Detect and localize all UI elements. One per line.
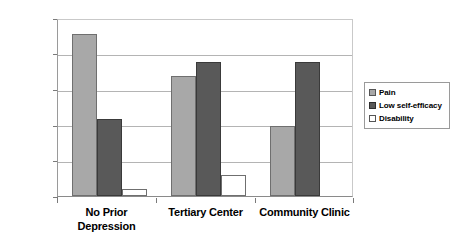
x-tick-mark-0 xyxy=(57,198,58,203)
legend-swatch-low-self-efficacy-icon xyxy=(369,102,376,109)
legend-label-low-self-efficacy: Low self-efficacy xyxy=(379,101,442,110)
legend-item-pain[interactable]: Pain xyxy=(369,87,446,98)
x-category-line-1: Community Clinic xyxy=(255,205,354,219)
chart-screenshot: 25% 20% 15% 10% 5% 0% xyxy=(0,0,458,241)
bar-disability-tertiary-center[interactable] xyxy=(221,175,246,196)
x-category-line-1: Tertiary Center xyxy=(156,205,255,219)
legend-swatch-pain-icon xyxy=(369,89,376,96)
legend-swatch-disability-icon xyxy=(369,115,376,122)
legend: Pain Low self-efficacy Disability xyxy=(364,82,450,129)
legend-label-disability: Disability xyxy=(379,114,414,123)
x-tick-mark-2 xyxy=(255,198,256,203)
bar-low-self-efficacy-community-clinic[interactable] xyxy=(295,62,320,196)
legend-item-low-self-efficacy[interactable]: Low self-efficacy xyxy=(369,100,446,111)
x-category-line-1: No Prior xyxy=(57,205,156,219)
bar-pain-tertiary-center[interactable] xyxy=(171,76,196,196)
legend-label-pain: Pain xyxy=(379,88,396,97)
x-category-label-community-clinic: Community Clinic xyxy=(255,205,354,219)
legend-item-disability[interactable]: Disability xyxy=(369,113,446,124)
x-tick-mark-1 xyxy=(156,198,157,203)
bar-low-self-efficacy-no-prior-depression[interactable] xyxy=(97,119,122,196)
plot-area xyxy=(57,19,353,197)
x-tick-mark-3 xyxy=(353,198,354,203)
bar-pain-no-prior-depression[interactable] xyxy=(72,34,97,196)
x-category-label-tertiary-center: Tertiary Center xyxy=(156,205,255,219)
bar-disability-no-prior-depression[interactable] xyxy=(122,189,147,196)
bar-low-self-efficacy-tertiary-center[interactable] xyxy=(196,62,221,196)
x-category-label-no-prior-depression: No Prior Depression xyxy=(57,205,156,233)
x-category-line-2: Depression xyxy=(57,219,156,233)
bar-pain-community-clinic[interactable] xyxy=(270,126,295,196)
